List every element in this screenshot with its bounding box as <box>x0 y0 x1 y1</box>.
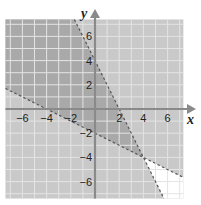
x-tick-label: −2 <box>65 112 78 124</box>
y-axis-label: y <box>79 6 88 21</box>
y-tick-label: −2 <box>79 127 92 139</box>
x-tick-label: 6 <box>165 112 171 124</box>
y-axis-arrow-icon <box>90 9 100 18</box>
y-tick-label: −4 <box>79 151 92 163</box>
y-tick-label: 2 <box>86 79 92 91</box>
inequality-graph: −6−4−2246642−2−4−6 x y <box>0 0 201 205</box>
x-tick-label: 2 <box>116 112 122 124</box>
y-tick-label: −6 <box>79 176 92 188</box>
y-tick-label: 6 <box>86 30 92 42</box>
x-axis-label: x <box>186 112 194 127</box>
x-tick-label: −4 <box>40 112 53 124</box>
y-tick-label: 4 <box>86 55 92 67</box>
x-tick-label: −6 <box>16 112 29 124</box>
x-tick-label: 4 <box>140 112 146 124</box>
